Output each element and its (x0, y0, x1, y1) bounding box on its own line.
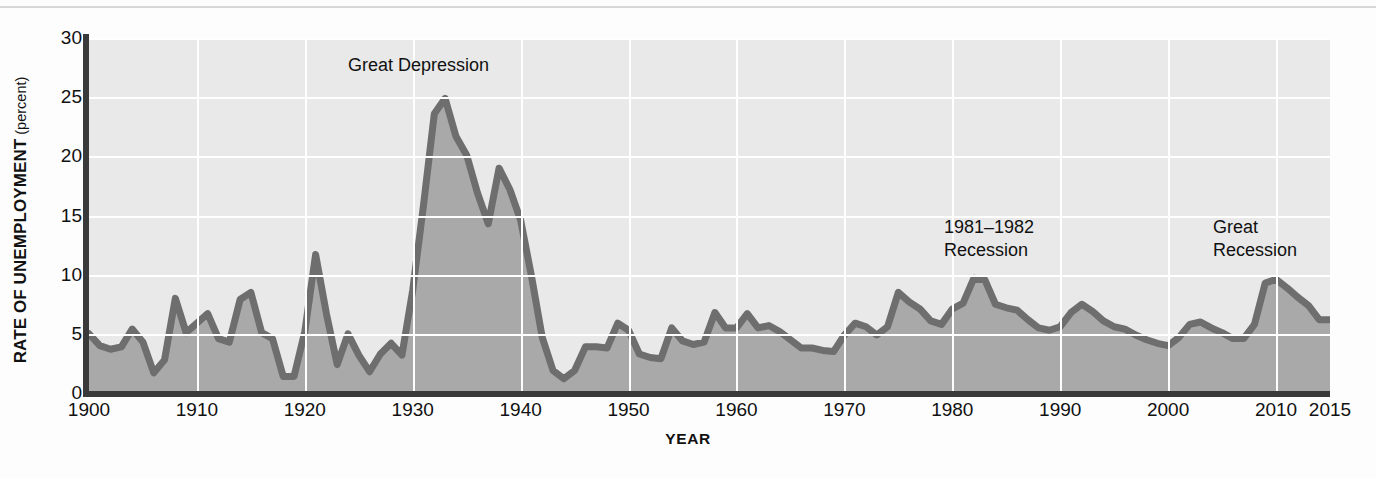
y-axis-title: RATE OF UNEMPLOYMENT (percent) (11, 55, 35, 385)
unemployment-rate-chart: RATE OF UNEMPLOYMENT (percent) 051015202… (0, 0, 1376, 479)
annotation-recession-1981-1982: 1981–1982 Recession (944, 216, 1034, 261)
x-tick-label: 1940 (500, 399, 542, 421)
horizontal-gridline (89, 334, 1330, 336)
y-tick-label: 20 (42, 145, 82, 167)
x-tick-label: 1980 (931, 399, 973, 421)
x-tick-label: 1930 (392, 399, 434, 421)
x-axis-title: YEAR (0, 430, 1376, 448)
x-tick-label: 2015 (1309, 399, 1351, 421)
annotation-great-recession: Great Recession (1213, 216, 1297, 261)
horizontal-gridline (89, 97, 1330, 99)
y-tick-label: 30 (42, 27, 82, 49)
x-tick-label: 1910 (176, 399, 218, 421)
y-axis-title-units: (percent) (13, 77, 29, 139)
x-tick-label: 1950 (607, 399, 649, 421)
horizontal-gridline (89, 156, 1330, 158)
horizontal-gridline (89, 275, 1330, 277)
top-divider-rule (0, 6, 1376, 8)
horizontal-gridline (89, 38, 1330, 40)
plot-area (89, 38, 1330, 393)
x-tick-label: 1900 (68, 399, 110, 421)
annotation-great-depression: Great Depression (348, 54, 489, 77)
y-tick-label: 5 (42, 323, 82, 345)
x-tick-label: 1990 (1039, 399, 1081, 421)
x-tick-label: 1970 (823, 399, 865, 421)
y-tick-label: 25 (42, 86, 82, 108)
horizontal-gridline (89, 216, 1330, 218)
x-tick-label: 1920 (284, 399, 326, 421)
y-axis-line (83, 34, 89, 397)
x-axis-line (83, 391, 1330, 397)
series-line (89, 98, 1330, 378)
plot-inner (89, 38, 1330, 393)
y-axis-title-main: RATE OF UNEMPLOYMENT (11, 139, 30, 364)
x-tick-label: 1960 (715, 399, 757, 421)
x-tick-label: 2010 (1255, 399, 1297, 421)
x-tick-label: 2000 (1147, 399, 1189, 421)
y-tick-label: 10 (42, 264, 82, 286)
y-tick-label: 15 (42, 205, 82, 227)
